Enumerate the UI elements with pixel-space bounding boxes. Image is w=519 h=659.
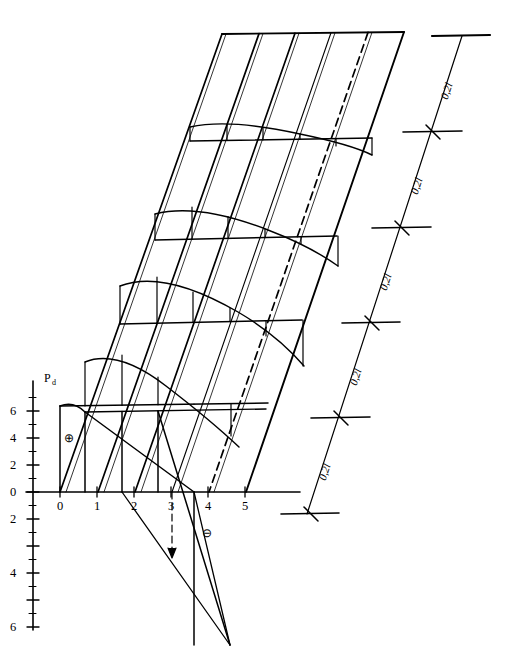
dimension-label-3: 0,2l <box>347 367 364 387</box>
y-tick-above-1: 4 <box>10 431 17 445</box>
main-ordinate-diagram <box>60 404 266 645</box>
x-tick-5: 5 <box>242 499 248 513</box>
influence-surface-svg: P d 6 4 2 0 2 4 6 0 1 2 3 4 5 ⊕ ⊖ 0,2l 0… <box>0 0 519 659</box>
x-tick-1: 1 <box>94 499 100 513</box>
coordinate-axes <box>26 381 300 630</box>
dimension-label-1: 0,2l <box>408 176 425 196</box>
dimension-label-0: 0,2l <box>438 81 455 101</box>
y-tick-below-1: 4 <box>10 566 17 580</box>
ordinate-axis-subscript: d <box>52 378 56 387</box>
ordinate-axis-label: P d <box>44 371 56 387</box>
positive-sign-symbol: ⊕ <box>64 431 74 445</box>
front-influence-line <box>60 355 268 447</box>
surface-longitudinal-ribs <box>60 32 404 492</box>
y-tick-above-0: 6 <box>10 404 16 418</box>
diagram-canvas: P d 6 4 2 0 2 4 6 0 1 2 3 4 5 ⊕ ⊖ 0,2l 0… <box>0 0 519 659</box>
dimension-label-2: 0,2l <box>377 272 394 292</box>
section-band-2 <box>155 207 338 266</box>
dimension-label-3-text: 0,2l <box>347 367 364 387</box>
dimension-label-0-text: 0,2l <box>438 81 455 101</box>
x-tick-0: 0 <box>57 499 63 513</box>
negative-sign-symbol: ⊖ <box>202 526 212 540</box>
dimension-label-4: 0,2l <box>316 462 333 482</box>
x-tick-3: 3 <box>168 499 174 513</box>
dimension-label-2-text: 0,2l <box>377 272 394 292</box>
ordinate-axis-label-text: P <box>44 371 51 385</box>
y-tick-below-2: 6 <box>10 620 16 634</box>
dimension-label-1-text: 0,2l <box>408 176 425 196</box>
dimension-label-4-text: 0,2l <box>316 462 333 482</box>
y-tick-above-3: 0 <box>10 485 16 499</box>
surface-top-edge <box>222 32 404 34</box>
y-tick-below-0: 2 <box>10 512 16 526</box>
x-tick-4: 4 <box>205 499 212 513</box>
x-tick-2: 2 <box>131 499 137 513</box>
y-tick-above-2: 2 <box>10 458 16 472</box>
